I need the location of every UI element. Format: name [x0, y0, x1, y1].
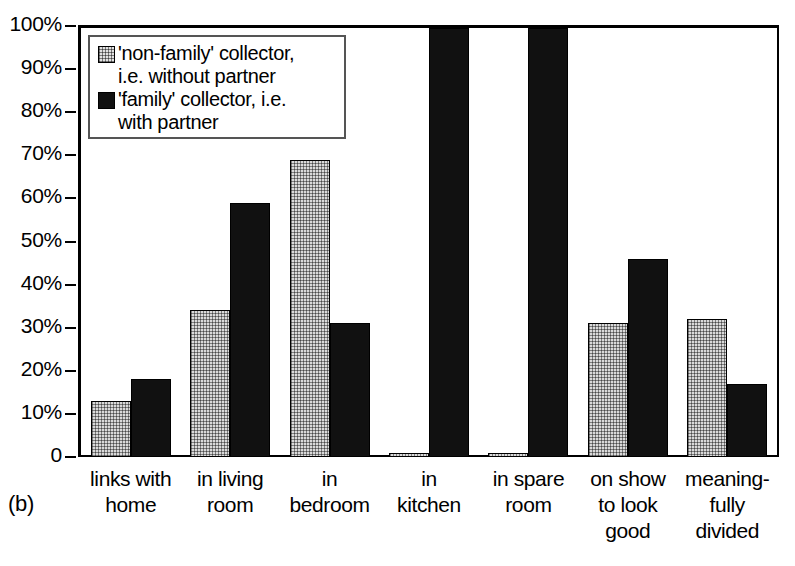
- light-checkered-swatch: [98, 46, 115, 63]
- y-axis-tick-label: 100%: [0, 13, 62, 34]
- x-axis-tick-label: links with home: [73, 466, 188, 518]
- bar-group: [389, 26, 469, 457]
- panel-label: (b): [8, 492, 34, 516]
- y-axis-tick-label: 40%: [0, 272, 62, 293]
- x-axis-tick-label: in bedroom: [272, 466, 387, 518]
- y-axis-tick-mark: [65, 25, 76, 27]
- y-axis-tick-mark: [65, 413, 76, 415]
- bar-group: [488, 26, 568, 457]
- y-axis-tick-mark: [65, 284, 76, 286]
- y-axis-tick-mark: [65, 154, 76, 156]
- y-axis-tick-label: 50%: [0, 229, 62, 250]
- bar-family: [727, 384, 767, 457]
- y-axis-tick-mark: [65, 456, 76, 458]
- y-axis-tick-label: 20%: [0, 358, 62, 379]
- y-axis-tick-label: 30%: [0, 315, 62, 336]
- bar-non-family: [687, 319, 727, 457]
- bar-non-family: [290, 160, 330, 457]
- y-axis-tick-mark: [65, 241, 76, 243]
- bar-family: [330, 323, 370, 457]
- bar-family: [131, 379, 171, 457]
- bar-non-family: [588, 323, 628, 457]
- legend-item-label: 'non-family' collector, i.e. without par…: [118, 42, 294, 88]
- legend: 'non-family' collector, i.e. without par…: [88, 35, 346, 139]
- bar-group: [588, 26, 668, 457]
- bar-family: [429, 28, 469, 457]
- y-axis-tick-mark: [65, 327, 76, 329]
- y-axis-tick-label: 10%: [0, 401, 62, 422]
- x-axis-labels: links with homein living roomin bedroomi…: [81, 466, 777, 562]
- y-axis-tick-label: 80%: [0, 99, 62, 120]
- y-axis-tick-mark: [65, 370, 76, 372]
- y-axis-tick-mark: [65, 197, 76, 199]
- bar-family: [628, 259, 668, 457]
- bar-chart-figure: 010%20%30%40%50%60%70%80%90%100% 'non-fa…: [0, 0, 795, 566]
- legend-item: 'non-family' collector, i.e. without par…: [98, 42, 338, 88]
- bar-non-family: [488, 453, 528, 457]
- x-axis-tick-label: in kitchen: [371, 466, 486, 518]
- legend-item-label: 'family' collector, i.e. with partner: [118, 88, 286, 134]
- x-axis-tick-label: in living room: [172, 466, 287, 518]
- y-axis: 010%20%30%40%50%60%70%80%90%100%: [0, 0, 78, 482]
- y-axis-tick-label: 0: [0, 444, 62, 465]
- bar-group: [687, 26, 767, 457]
- x-axis-tick-label: on show to look good: [570, 466, 685, 544]
- legend-item: 'family' collector, i.e. with partner: [98, 88, 338, 134]
- bar-family: [528, 28, 568, 457]
- x-axis-tick-label: in spare room: [471, 466, 586, 518]
- y-axis-tick-mark: [65, 68, 76, 70]
- bar-non-family: [190, 310, 230, 457]
- y-axis-tick-label: 70%: [0, 142, 62, 163]
- dark-solid-swatch: [98, 92, 115, 109]
- y-axis-tick-label: 60%: [0, 185, 62, 206]
- bar-non-family: [389, 453, 429, 457]
- bar-non-family: [91, 401, 131, 457]
- y-axis-tick-mark: [65, 111, 76, 113]
- bar-family: [230, 203, 270, 457]
- x-axis-tick-label: meaning- fully divided: [670, 466, 785, 544]
- y-axis-tick-label: 90%: [0, 56, 62, 77]
